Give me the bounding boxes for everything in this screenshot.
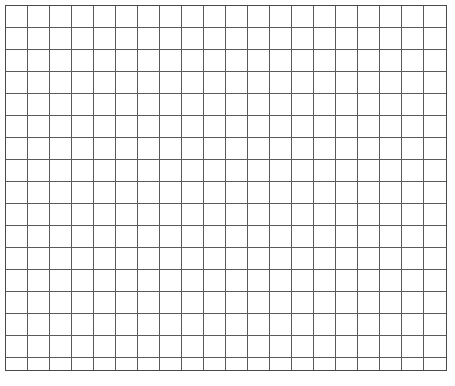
grid-lines-svg [5, 5, 447, 371]
grid-canvas [0, 0, 455, 386]
grid-sheet[interactable] [5, 5, 447, 371]
